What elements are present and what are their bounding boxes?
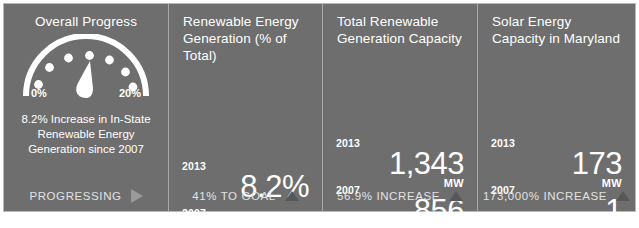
stat-unit: MW xyxy=(478,224,635,228)
stat-value: 5.8% xyxy=(240,217,309,228)
footer-status-label: 41% TO GOAL xyxy=(192,190,276,202)
panel-solar-capacity-maryland: Solar Energy Capacity in Maryland 2013 1… xyxy=(477,4,635,211)
triangle-right-icon xyxy=(131,189,143,203)
stat-unit: MW xyxy=(323,224,477,228)
panel-title: Solar Energy Capacity in Maryland xyxy=(478,4,635,47)
progress-blurb: 8.2% Increase in In-State Renewable Ener… xyxy=(4,106,168,157)
panel-renewable-generation-percent: Renewable Energy Generation (% of Total)… xyxy=(168,4,322,211)
triangle-up-icon xyxy=(616,191,630,201)
stat-value: 173 xyxy=(572,147,622,181)
panel-footer[interactable]: 56.9% INCREASE xyxy=(323,181,477,211)
footer-status-label: 56.9% INCREASE xyxy=(337,190,440,202)
panel-title: Overall Progress xyxy=(4,4,168,30)
panel-footer[interactable]: PROGRESSING xyxy=(4,181,168,211)
triangle-up-icon xyxy=(285,191,299,201)
metrics-dashboard: Overall Progress 0% xyxy=(3,3,636,212)
panel-footer[interactable]: 173,000% INCREASE xyxy=(478,181,635,211)
panel-title: Total Renewable Generation Capacity xyxy=(323,4,477,47)
panel-title: Renewable Energy Generation (% of Total) xyxy=(169,4,322,64)
gauge-min-label: 0% xyxy=(31,87,47,99)
triangle-up-icon xyxy=(449,191,463,201)
panel-overall-progress: Overall Progress 0% xyxy=(4,4,168,211)
footer-status-label: PROGRESSING xyxy=(29,190,121,202)
progress-gauge: 0% 20% xyxy=(4,34,168,106)
gauge-scale-labels: 0% 20% xyxy=(4,87,168,99)
panel-total-generation-capacity: Total Renewable Generation Capacity 2013… xyxy=(322,4,477,211)
stat-value: 1,343 xyxy=(389,147,464,181)
footer-status-label: 173,000% INCREASE xyxy=(483,190,607,202)
gauge-max-label: 20% xyxy=(119,87,141,99)
panel-footer[interactable]: 41% TO GOAL xyxy=(169,181,322,211)
